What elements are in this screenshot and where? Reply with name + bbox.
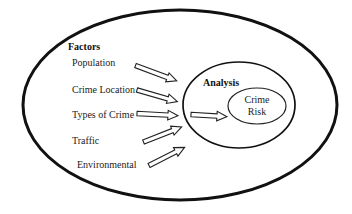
factors-title: Factors	[68, 41, 100, 53]
diagram-shapes	[0, 0, 352, 214]
factor-item-crime-location: Crime Location	[72, 84, 135, 96]
crime-risk-line1: Crime	[229, 94, 285, 106]
factor-item-environmental: Environmental	[77, 159, 136, 171]
arrow-types-of-crime	[137, 109, 178, 121]
diagram-canvas: Factors Population Crime Location Types …	[0, 0, 352, 214]
factor-item-traffic: Traffic	[72, 135, 99, 147]
arrow-environmental	[147, 143, 187, 170]
factor-item-types-of-crime: Types of Crime	[72, 109, 134, 121]
analysis-title: Analysis	[203, 77, 239, 89]
factor-item-population: Population	[72, 57, 115, 69]
arrow-crime-location	[136, 85, 179, 106]
arrow-population	[134, 61, 179, 85]
arrow-traffic	[142, 123, 184, 147]
crime-risk-label: Crime Risk	[229, 94, 285, 118]
crime-risk-line2: Risk	[229, 106, 285, 118]
